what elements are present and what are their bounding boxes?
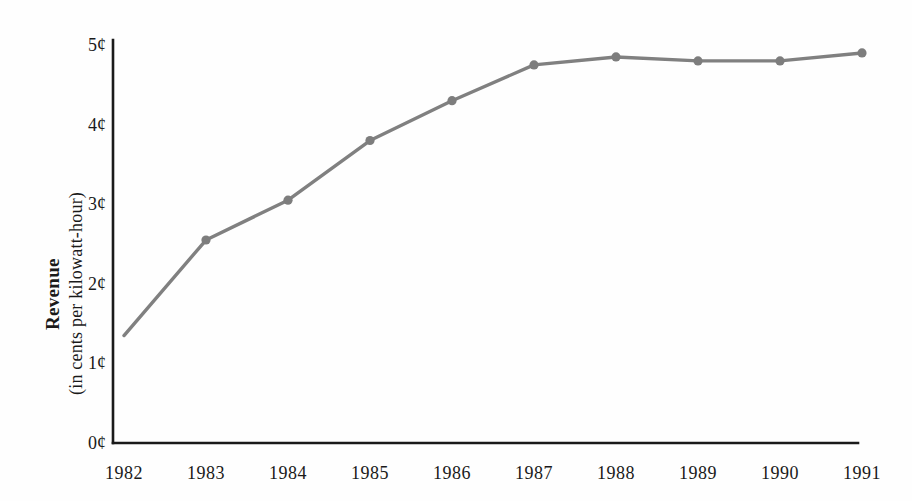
data-point-marker: [857, 48, 866, 57]
data-point-marker: [693, 56, 702, 65]
revenue-line: [124, 53, 862, 336]
data-point-marker: [201, 235, 210, 244]
data-point-marker: [529, 60, 538, 69]
data-point-marker: [283, 196, 292, 205]
axis-lines: [113, 40, 858, 443]
data-point-marker: [611, 52, 620, 61]
plot-area: [0, 0, 912, 501]
data-point-marker: [775, 56, 784, 65]
data-series-revenue: [124, 53, 862, 336]
data-point-marker: [447, 96, 456, 105]
data-point-marker: [365, 136, 374, 145]
data-point-markers: [201, 48, 866, 244]
revenue-line-chart: Revenue (in cents per kilowatt-hour) 0¢1…: [0, 0, 912, 501]
